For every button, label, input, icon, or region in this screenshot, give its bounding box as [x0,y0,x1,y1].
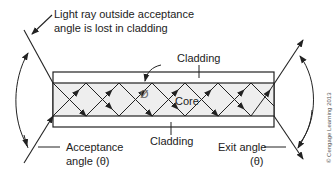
critical-angle-symbol: Ø [140,88,149,101]
exit-label-line2: (θ) [250,155,263,168]
incoming-ray [24,116,53,163]
lost-ray-label-line1: Light ray outside acceptance [54,8,194,21]
cladding-top-label: Cladding [177,52,220,65]
fiber [53,72,274,127]
exit-ray-down [274,116,303,159]
lost-ray [24,15,53,83]
cladding-bottom-label: Cladding [150,135,193,148]
acceptance-label-line1: Acceptance [66,141,123,154]
copyright-notice: © Cengage Learning 2013 [326,93,332,163]
lost-ray-label-line2: angle is lost in cladding [54,22,168,35]
acceptance-angle-arc [16,53,28,145]
acceptance-label-line2: angle (θ) [66,155,109,168]
core-label: Core [175,95,199,108]
exit-angle-arc [300,56,314,143]
exit-ray-up [274,40,303,84]
exit-label-line1: Exit angle [218,141,266,154]
core-region [53,83,274,116]
